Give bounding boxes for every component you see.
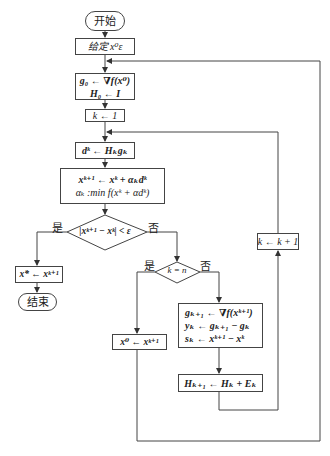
start-label: 开始 [94, 15, 116, 28]
no-label-2: 否 [200, 257, 211, 273]
restart-box: x⁰ ← xᵏ⁺¹ [112, 334, 167, 350]
gradient-init-line-2: H₀ ← I [90, 87, 120, 100]
gradient-init-line-1: g₀ ← ∇f(x⁰) [80, 74, 130, 87]
result-box: x* ← xᵏ⁺¹ [15, 266, 63, 283]
init-label: 给定 x⁰ε [88, 40, 123, 53]
quasi-line-1: gₖ₊₁ ← ∇f(xᵏ⁺¹) [185, 306, 253, 319]
increment-box: k ← k + 1 [257, 233, 299, 250]
direction-box: dᵏ ← Hₖgₖ [75, 142, 135, 159]
hessian-update-box: Hₖ₊₁ ← Hₖ + Eₖ [178, 374, 263, 392]
yes-label-2: 是 [144, 257, 155, 273]
start-terminator: 开始 [85, 11, 125, 31]
quasi-line-3: sₖ ← xᵏ⁺¹ − xᵏ [185, 332, 244, 345]
restart-label: x⁰ ← xᵏ⁺¹ [120, 336, 158, 349]
direction-label: dᵏ ← Hₖgₖ [82, 144, 128, 157]
k-equals-n-label: k = n [158, 265, 196, 275]
no-label-1: 否 [148, 219, 159, 235]
result-label: x* ← xᵏ⁺¹ [19, 268, 58, 281]
gradient-init-box: g₀ ← ∇f(x⁰) H₀ ← I [75, 73, 135, 100]
increment-label: k ← k + 1 [258, 235, 299, 248]
yes-label-1: 是 [52, 219, 63, 235]
quasi-newton-box: gₖ₊₁ ← ∇f(xᵏ⁺¹) yₖ ← gₖ₊₁ − gₖ sₖ ← xᵏ⁺¹… [178, 303, 263, 348]
connector-lines [0, 0, 330, 456]
update-box: xᵏ⁺¹ ← xᵏ + αₖdᵏ αₖ :min f(xᵏ + αdᵏ) [60, 168, 165, 204]
init-box: 给定 x⁰ε [75, 38, 135, 55]
end-terminator: 结束 [18, 293, 57, 311]
k-init-label: k ← 1 [93, 109, 117, 122]
convergence-test-label: |xᵏ⁺¹ − xᵏ| < ε [72, 225, 138, 236]
k-init-box: k ← 1 [85, 109, 125, 122]
hessian-update-label: Hₖ₊₁ ← Hₖ + Eₖ [184, 377, 256, 390]
update-line-1: xᵏ⁺¹ ← xᵏ + αₖdᵏ [78, 173, 146, 186]
update-line-2: αₖ :min f(xᵏ + αdᵏ) [76, 186, 150, 199]
end-label: 结束 [27, 296, 49, 309]
quasi-line-2: yₖ ← gₖ₊₁ − gₖ [185, 319, 250, 332]
